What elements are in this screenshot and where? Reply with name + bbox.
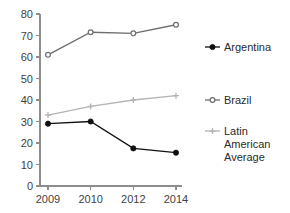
legend-marker: [210, 128, 216, 134]
data-point: [173, 93, 179, 99]
y-tick-label: 10: [21, 159, 33, 171]
legend-label: Latin: [224, 125, 248, 137]
y-tick-label: 60: [21, 51, 33, 63]
data-point: [131, 31, 136, 36]
series-path: [48, 96, 176, 115]
y-tick-label: 40: [21, 94, 33, 106]
data-point: [131, 146, 136, 151]
legend-label: American: [224, 138, 270, 150]
legend-marker: [210, 98, 215, 103]
data-point: [45, 121, 50, 126]
series-path: [48, 122, 176, 153]
legend-label: Argentina: [224, 41, 272, 53]
line-chart: 010203040506070802009201020122014Argenti…: [0, 0, 290, 213]
y-tick-label: 30: [21, 116, 33, 128]
legend-label: Average: [224, 151, 265, 163]
chart-canvas: 010203040506070802009201020122014Argenti…: [0, 0, 290, 213]
legend-entry-brazil[interactable]: Brazil: [205, 94, 252, 106]
series-argentina: [45, 119, 178, 155]
x-tick-label: 2014: [164, 193, 188, 205]
data-point: [45, 112, 51, 118]
data-point: [88, 30, 93, 35]
legend-entry-argentina[interactable]: Argentina: [205, 41, 272, 53]
y-tick-label: 80: [21, 8, 33, 20]
legend-marker: [210, 44, 215, 49]
data-point: [173, 150, 178, 155]
y-tick-label: 0: [27, 180, 33, 192]
data-point: [46, 52, 51, 57]
data-point: [88, 119, 93, 124]
legend-entry-latin-american-average[interactable]: LatinAmericanAverage: [205, 125, 270, 163]
data-point: [174, 22, 179, 27]
x-tick-label: 2009: [36, 193, 60, 205]
y-tick-label: 70: [21, 30, 33, 42]
series-brazil: [46, 22, 179, 57]
series-path: [48, 25, 176, 55]
x-tick-label: 2012: [121, 193, 145, 205]
data-point: [88, 103, 94, 109]
x-tick-label: 2010: [78, 193, 102, 205]
y-tick-label: 50: [21, 73, 33, 85]
legend-label: Brazil: [224, 94, 252, 106]
data-point: [130, 97, 136, 103]
y-tick-label: 20: [21, 137, 33, 149]
series-latin-american-average: [45, 93, 179, 118]
